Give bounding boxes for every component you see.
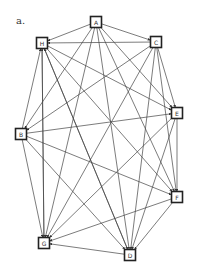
edge-a-to-h — [48, 24, 91, 41]
node-d: D — [125, 250, 136, 261]
node-f: F — [172, 192, 183, 203]
edge-b-to-g — [22, 140, 43, 238]
node-e: E — [172, 108, 183, 119]
node-a: A — [91, 17, 102, 28]
edge-b-to-e — [27, 114, 172, 134]
node-g: G — [39, 238, 50, 249]
edge-c-to-b — [27, 46, 151, 131]
node-label: D — [128, 252, 133, 259]
node-c: C — [151, 37, 162, 48]
edge-a-to-f — [99, 28, 175, 192]
node-label: E — [175, 110, 179, 117]
directed-graph: ACHEBFGD — [0, 0, 197, 274]
edge-c-to-f — [157, 48, 177, 192]
edge-c-to-h — [48, 42, 151, 43]
edge-a-to-c — [102, 24, 151, 40]
edges-layer — [22, 24, 177, 254]
node-label: C — [154, 39, 158, 46]
edge-d-to-g — [50, 244, 125, 254]
edge-c-to-g — [47, 48, 153, 238]
node-b: B — [16, 129, 27, 140]
edge-c-to-e — [158, 48, 176, 108]
node-label: H — [40, 40, 45, 47]
node-h: H — [37, 38, 48, 49]
edge-b-to-h — [22, 49, 40, 129]
node-label: F — [175, 194, 179, 201]
node-label: G — [42, 240, 47, 247]
edge-a-to-g — [45, 28, 94, 238]
node-label: B — [19, 131, 23, 138]
edge-a-to-d — [97, 28, 129, 250]
